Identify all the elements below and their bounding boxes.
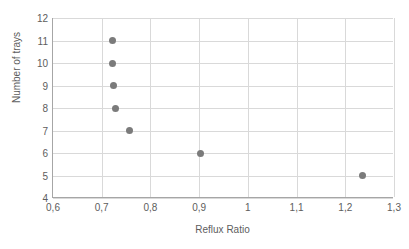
gridline-vertical [199, 18, 200, 197]
x-axis-tick-label: 1,1 [290, 202, 304, 213]
x-axis-tick-label: 0,8 [143, 202, 157, 213]
gridline-horizontal [53, 41, 393, 42]
plot-area: 456789101112 0,60,70,80,911,11,21,3 [52, 18, 393, 198]
data-point [109, 60, 116, 67]
x-axis-title: Reflux Ratio [52, 224, 393, 235]
gridline-vertical [248, 18, 249, 197]
x-axis-tick-label: 1,2 [338, 202, 352, 213]
data-point [126, 127, 133, 134]
x-axis-tick-label: 0,7 [95, 202, 109, 213]
gridline-vertical [394, 18, 395, 197]
scatter-chart: Number of trays 456789101112 0,60,70,80,… [0, 0, 409, 249]
y-axis-tick-label: 7 [42, 125, 48, 136]
y-axis-tick-label: 12 [37, 13, 48, 24]
y-axis-tick-label: 8 [42, 103, 48, 114]
x-axis-tick-label: 1 [245, 202, 251, 213]
x-axis-tick-label: 1,3 [387, 202, 401, 213]
gridline-horizontal [53, 63, 393, 64]
x-axis-tick-label: 0,9 [192, 202, 206, 213]
data-point [110, 82, 117, 89]
gridline-horizontal [53, 131, 393, 132]
gridline-horizontal [53, 176, 393, 177]
data-point [197, 150, 204, 157]
y-axis-tick-label: 10 [37, 58, 48, 69]
y-axis-tick-label: 6 [42, 148, 48, 159]
gridline-vertical [150, 18, 151, 197]
x-axis-tick-label: 0,6 [46, 202, 60, 213]
data-point [109, 37, 116, 44]
data-point [359, 172, 366, 179]
gridline-horizontal [53, 18, 393, 19]
gridline-vertical [345, 18, 346, 197]
gridline-horizontal [53, 108, 393, 109]
gridline-horizontal [53, 86, 393, 87]
gridline-horizontal [53, 153, 393, 154]
y-axis-tick-label: 9 [42, 80, 48, 91]
gridline-vertical [297, 18, 298, 197]
y-axis-title: Number of trays [11, 8, 22, 128]
y-axis-tick-label: 11 [38, 35, 48, 46]
gridline-horizontal [53, 198, 393, 199]
y-axis-tick-label: 5 [42, 170, 48, 181]
data-point [112, 105, 119, 112]
gridline-vertical [102, 18, 103, 197]
